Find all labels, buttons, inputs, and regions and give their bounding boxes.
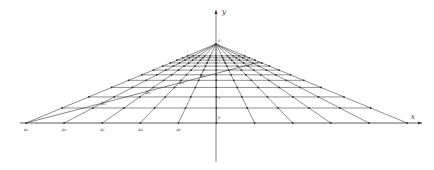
grid-point <box>268 79 270 81</box>
grid-point <box>215 59 217 61</box>
perspective-diagram: a₁a₂a₃a₄a₅b₁b₂b₃b₄yx001 <box>0 0 434 170</box>
grid-point <box>183 65 185 67</box>
grid-point <box>182 57 184 59</box>
grid-point <box>111 87 113 89</box>
grid-point <box>190 96 192 98</box>
grid-point <box>275 74 277 76</box>
grid-point <box>195 57 197 59</box>
vanishing-point-label: 0 <box>218 39 221 43</box>
y-axis-label: y <box>221 8 227 16</box>
grid-point <box>320 87 322 89</box>
baseline-label: a₁ <box>24 127 29 132</box>
grid-point <box>215 65 217 67</box>
grid-point <box>165 69 167 71</box>
grid-point <box>215 57 217 59</box>
baseline-point <box>292 122 294 124</box>
grid-point <box>370 107 372 109</box>
grid-point <box>206 62 208 64</box>
grid-point <box>238 55 240 57</box>
grid-point <box>171 74 173 76</box>
grid-point <box>215 74 217 76</box>
grid-point <box>203 69 205 71</box>
x-axis-arrow-icon <box>418 122 422 125</box>
baseline-label: a₄ <box>138 127 143 132</box>
axis-tick-label: 1 <box>218 96 220 100</box>
grid-point <box>215 55 217 57</box>
grid-point <box>233 79 235 81</box>
grid-point <box>215 87 217 89</box>
grid-point <box>278 87 280 89</box>
vanishing-point <box>215 43 217 45</box>
grid-point <box>179 62 181 64</box>
grid-point <box>260 74 262 76</box>
grid-point <box>204 55 206 57</box>
grid-point <box>209 55 211 57</box>
grid-point <box>269 65 271 67</box>
grid-point <box>145 79 147 81</box>
grid-point <box>253 69 255 71</box>
grid-point <box>156 74 158 76</box>
grid-point <box>184 59 186 61</box>
grid-point <box>132 87 134 89</box>
diagonal-label: b₁ <box>101 101 106 106</box>
grid-point <box>215 62 217 64</box>
grid-point <box>245 74 247 76</box>
grid-point <box>339 107 341 109</box>
grid-point <box>290 74 292 76</box>
grid-point <box>164 96 166 98</box>
grid-point <box>88 96 90 98</box>
grid-point <box>236 87 238 89</box>
grid-point <box>221 55 223 57</box>
grid-point <box>257 87 259 89</box>
grid-point <box>163 79 165 81</box>
baseline-point <box>406 122 408 124</box>
grid-point <box>92 107 94 109</box>
origin-label: 0 <box>218 116 221 120</box>
grid-point <box>128 79 130 81</box>
grid-point <box>173 87 175 89</box>
baseline-point <box>216 122 218 124</box>
baseline-point <box>63 122 65 124</box>
grid-point <box>152 69 154 71</box>
grid-point <box>178 69 180 71</box>
grid-point <box>113 96 115 98</box>
grid-point <box>194 65 196 67</box>
grid-point <box>258 65 260 67</box>
baseline-point <box>368 122 370 124</box>
grid-point <box>266 96 268 98</box>
grid-point <box>303 79 305 81</box>
grid-point <box>224 62 226 64</box>
grid-point <box>242 57 244 59</box>
x-axis-label: x <box>411 113 415 121</box>
grid-point <box>243 62 245 64</box>
grid-point <box>170 62 172 64</box>
baseline-label: a₅ <box>176 127 181 132</box>
grid-point <box>285 79 287 81</box>
baseline-point <box>330 122 332 124</box>
grid-point <box>246 59 248 61</box>
grid-point <box>207 59 209 61</box>
grid-point <box>254 59 256 61</box>
grid-point <box>153 87 155 89</box>
diagonal-line <box>26 62 260 123</box>
baseline-point <box>139 122 141 124</box>
grid-point <box>61 107 63 109</box>
baseline-label: a₃ <box>100 127 105 132</box>
diagonal-label: b₃ <box>179 80 184 85</box>
grid-point <box>240 69 242 71</box>
baseline-point <box>101 122 103 124</box>
grid-point <box>234 62 236 64</box>
grid-point <box>154 107 156 109</box>
grid-point <box>250 79 252 81</box>
grid-point <box>226 65 228 67</box>
grid-point <box>232 55 234 57</box>
grid-point <box>141 74 143 76</box>
grid-point <box>246 107 248 109</box>
grid-point <box>235 57 237 59</box>
grid-point <box>176 59 178 61</box>
grid-point <box>249 57 251 59</box>
grid-point <box>197 62 199 64</box>
grid-point <box>222 57 224 59</box>
grid-point <box>237 65 239 67</box>
grid-point <box>189 57 191 59</box>
